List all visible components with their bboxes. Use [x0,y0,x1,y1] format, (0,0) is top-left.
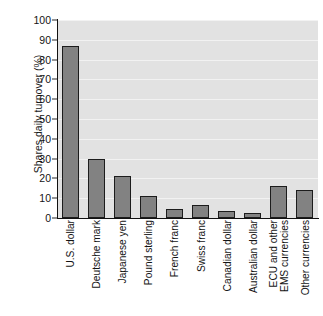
y-axis-tick-labels: 0102030405060708090100 [22,20,51,218]
bar [88,159,105,218]
y-axis-tick-label: 100 [22,15,51,26]
gridline [57,40,318,41]
x-axis-tick-label-text: French franc [169,220,180,316]
x-axis-tick-label: Australian dollar [247,220,259,316]
y-axis-tick-mark [52,20,57,21]
bar [166,209,183,218]
y-axis-tick-label: 40 [22,134,51,145]
gridline [57,60,318,61]
y-axis-line [57,19,58,219]
y-axis-tick-label: 20 [22,173,51,184]
y-axis-tick-mark [52,79,57,80]
x-axis-tick-label-text: Pound sterling [143,220,154,316]
x-axis-tick-label: ECU and other EMS currencies [273,220,285,316]
y-axis-tick-mark [52,119,57,120]
y-axis-tick-label: 60 [22,94,51,105]
x-axis-tick-label-text: U.S. dollar [65,220,76,316]
x-axis-tick-label-text: Australian dollar [247,220,258,316]
bar [62,46,79,218]
y-axis-tick-mark [52,178,57,179]
y-axis-tick-mark [52,39,57,40]
gridline [57,99,318,100]
y-axis-tick-mark [52,218,57,219]
y-axis-tick-label: 50 [22,114,51,125]
x-axis-tick-label: Deutsche mark [90,220,102,316]
gridline [57,139,318,140]
x-axis-tick-label: French franc [168,220,180,316]
x-axis-tick-label: Other currencies [299,220,311,316]
y-axis-tick-label: 70 [22,74,51,85]
y-axis-tick-mark [52,138,57,139]
y-axis-tick-label: 10 [22,193,51,204]
x-axis-tick-labels: U.S. dollarDeutsche markJapanese yenPoun… [57,220,318,316]
x-axis-tick-label: Pound sterling [142,220,154,316]
x-axis-tick-label-text: Other currencies [299,220,310,316]
gridline [57,79,318,80]
x-axis-tick-label: Canadian dollar [221,220,233,316]
x-axis-tick-label: Swiss franc [195,220,207,316]
x-axis-tick-label: U.S. dollar [64,220,76,316]
x-axis-tick-label-text: Deutsche mark [91,220,102,316]
y-axis-tick-mark [52,158,57,159]
y-axis-tick-mark [52,59,57,60]
y-axis-tick-mark [52,198,57,199]
y-axis-tick-label: 30 [22,153,51,164]
gridline [57,20,318,21]
x-axis-tick-label-text: Swiss franc [195,220,206,316]
bar [140,196,157,218]
bar [114,176,131,218]
bar-chart: Shares daily turnover (%) 01020304050607… [0,0,323,316]
y-axis-tick-mark [52,99,57,100]
x-axis-tick-label: Japanese yen [116,220,128,316]
bar [192,205,209,218]
bar [218,211,235,218]
y-axis-tick-label: 0 [22,213,51,224]
x-axis-tick-label-text: Canadian dollar [221,220,232,316]
gridline [57,119,318,120]
bar [296,190,313,218]
y-axis-tick-label: 80 [22,54,51,65]
x-axis-tick-label-text: Japanese yen [117,220,128,316]
y-axis-tick-label: 90 [22,35,51,46]
bar [270,186,287,218]
plot-area [57,20,318,218]
x-axis-tick-label-text: ECU and other EMS currencies [268,220,290,316]
